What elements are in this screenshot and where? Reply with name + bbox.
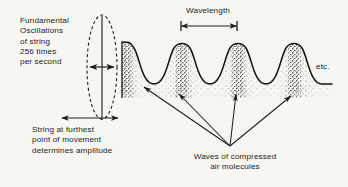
- compressed-air-caption-label: Waves of compressed air molecules: [170, 152, 300, 173]
- etc-label: etc.: [316, 62, 330, 72]
- wavelength-label: Wavelength: [186, 6, 230, 16]
- amplitude-caption-label: String at furthest point of movement det…: [32, 125, 112, 156]
- fundamental-oscillations-label: Fundamental Oscillations of string 256 t…: [20, 16, 69, 67]
- wavelength-double-arrow: [181, 21, 237, 31]
- sound-wave-diagram: Fundamental Oscillations of string 256 t…: [0, 0, 348, 187]
